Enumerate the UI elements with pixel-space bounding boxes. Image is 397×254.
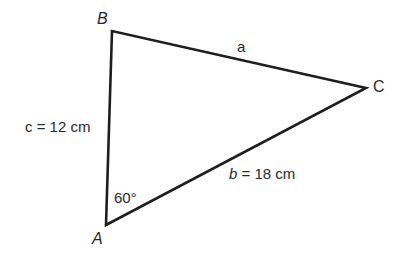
side-c-variable: c — [25, 118, 33, 135]
vertex-label-a: A — [92, 231, 103, 247]
side-c-value: = 12 cm — [33, 118, 91, 135]
vertex-label-c: C — [373, 79, 385, 95]
side-label-b: b = 18 cm — [229, 166, 295, 181]
side-label-c: c = 12 cm — [25, 119, 90, 134]
angle-a-label: 60° — [114, 190, 137, 205]
side-label-a: a — [237, 39, 245, 54]
vertex-label-b: B — [97, 11, 108, 27]
triangle-abc — [106, 31, 366, 225]
side-b-value: = 18 cm — [237, 165, 295, 182]
